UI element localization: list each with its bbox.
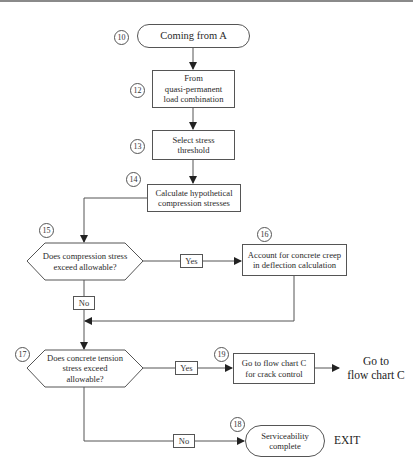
label-line: in deflection calculation [248,260,341,270]
label-line: Does concrete tension [47,353,123,363]
label-line: Go to flow chart C [242,358,306,368]
step-number-18: 18 [230,417,245,432]
label-line: stress exceed [47,363,123,373]
label-line: complete [261,441,309,451]
edge-label-yes-15: Yes [180,254,203,268]
exit-text: EXIT [334,434,360,448]
edge-label-yes-17: Yes [175,361,198,375]
process-account-for-creep: Account for concrete creep in deflection… [242,244,347,276]
label-line: Account for concrete creep [248,250,341,260]
step-number-17: 17 [15,347,30,362]
edge-16-merge [85,276,294,321]
label-line: flow chart C [340,369,412,383]
label-line: exceed allowable? [43,262,128,272]
decision-compression-stress: Does compression stress exceed allowable… [32,243,138,280]
label-line: Serviceability [261,431,309,441]
label-line: Calculate hypothetical [155,188,232,198]
step-number-16: 16 [257,227,272,242]
step-number-19: 19 [214,347,229,362]
step-number-12: 12 [130,83,145,98]
label-line: for crack control [242,369,306,379]
decision-tension-stress: Does concrete tension stress exceed allo… [36,350,134,387]
goto-flow-chart-c-text: Go to flow chart C [340,355,412,383]
terminator-coming-from-a: Coming from A [137,24,250,48]
label-line: Select stress [172,135,214,145]
step-number-13: 13 [130,139,145,154]
step-number-15: 15 [39,223,54,238]
label-line: load combination [164,94,224,104]
process-select-stress-threshold: Select stress threshold [152,130,235,160]
edge-14-15 [84,198,147,242]
label-line: From [164,73,224,83]
edge-label-no-15: No [73,296,95,310]
label-line: allowable? [47,374,123,384]
label-line: Go to [340,355,412,369]
step-number-14: 14 [126,172,141,187]
label-line: Does compression stress [43,251,128,261]
label-line: quasi-permanent [164,84,224,94]
edge-label-no-17: No [173,434,195,448]
process-calculate-compression-stresses: Calculate hypothetical compression stres… [147,184,241,212]
process-go-to-flow-chart-c: Go to flow chart C for crack control [233,353,315,384]
terminator-label: Coming from A [160,30,227,43]
process-load-combination: From quasi-permanent load combination [152,70,235,108]
terminator-serviceability-complete: Serviceability complete [245,425,325,457]
edge-17-18 [84,387,244,441]
step-number-10: 10 [114,30,129,45]
label-line: threshold [172,145,214,155]
label-line: compression stresses [155,198,232,208]
